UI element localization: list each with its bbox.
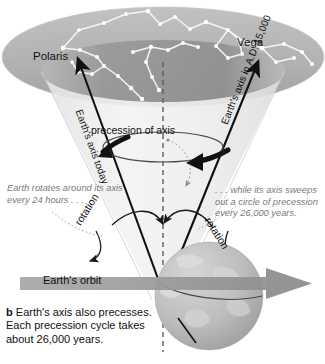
caption-marker: b [6, 306, 13, 318]
label-polaris: Polaris [33, 50, 68, 62]
precession-figure: Polaris Vega Earth's axis today precessi… [0, 0, 325, 364]
caption-text: Earth's axis also precesses. Each preces… [6, 306, 152, 345]
label-precession-of-axis: precession of axis [91, 124, 175, 136]
note-precession: . . . while its axis sweeps out a circle… [215, 185, 320, 220]
note-rotation: Earth rotates around its axis every 24 h… [7, 183, 125, 206]
figure-caption: b Earth's axis also precesses. Each prec… [6, 306, 156, 346]
rotation-arrow-left [90, 231, 101, 261]
label-earths-orbit: Earth's orbit [43, 274, 101, 286]
earth-globe [155, 242, 263, 350]
